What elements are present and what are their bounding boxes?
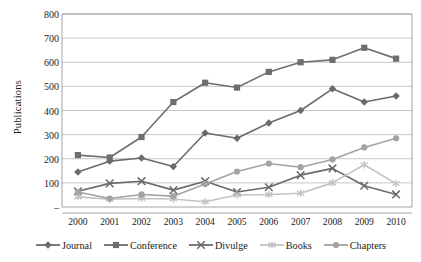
- data-point-chapters-2002: [138, 191, 144, 197]
- legend-label-conference: Conference: [130, 240, 177, 251]
- data-point-journal-2009: [361, 98, 368, 105]
- data-point-chapters-2005: [234, 168, 240, 174]
- data-point-chapters-2006: [266, 160, 272, 166]
- data-point-books-2010: [392, 180, 399, 187]
- data-point-conference-2001: [107, 154, 113, 160]
- legend-label-divulge: Divulge: [215, 240, 248, 251]
- plot-area: [0, 0, 421, 262]
- data-point-conference-2009: [361, 45, 367, 51]
- data-point-chapters-2010: [393, 135, 399, 141]
- legend-label-chapters: Chapters: [350, 240, 386, 251]
- data-point-conference-legend: [113, 242, 119, 248]
- data-point-journal-2002: [138, 154, 145, 161]
- legend-marker-diamond-icon: [35, 239, 61, 251]
- legend-label-journal: Journal: [62, 240, 92, 251]
- data-point-chapters-2007: [298, 164, 304, 170]
- data-point-conference-2004: [202, 80, 208, 86]
- publications-line-chart: Publications 800700600500400300200100– 2…: [0, 0, 421, 262]
- data-point-journal-2005: [233, 135, 240, 142]
- gridlines: [62, 14, 412, 183]
- legend-item-books[interactable]: Books: [259, 239, 312, 251]
- legend-marker-circle-icon: [323, 239, 349, 251]
- data-series-layer: [74, 45, 400, 206]
- data-point-chapters-2004: [202, 181, 208, 187]
- legend-marker-star-icon: [259, 239, 285, 251]
- series-line-journal: [78, 89, 396, 172]
- legend-item-journal[interactable]: Journal: [35, 239, 92, 251]
- data-point-journal-2006: [265, 119, 272, 126]
- legend-marker-cross-icon: [188, 239, 214, 251]
- data-point-chapters-2008: [329, 156, 335, 162]
- data-point-chapters-legend: [333, 242, 339, 248]
- data-point-journal-2010: [392, 92, 399, 99]
- data-point-conference-2000: [75, 152, 81, 158]
- data-point-chapters-2001: [107, 195, 113, 201]
- legend-item-chapters[interactable]: Chapters: [323, 239, 386, 251]
- data-point-books-2009: [361, 161, 368, 168]
- data-point-conference-2010: [393, 56, 399, 62]
- data-point-journal-2000: [74, 168, 81, 175]
- series-journal: [74, 85, 400, 176]
- chart-legend: JournalConferenceDivulgeBooksChapters: [0, 234, 421, 256]
- data-point-conference-2003: [170, 99, 176, 105]
- legend-item-conference[interactable]: Conference: [103, 239, 177, 251]
- data-point-chapters-2009: [361, 144, 367, 150]
- data-point-chapters-2000: [75, 189, 81, 195]
- legend-label-books: Books: [286, 240, 312, 251]
- data-point-conference-2005: [234, 84, 240, 90]
- legend-marker-square-icon: [103, 239, 129, 251]
- data-point-journal-legend: [44, 241, 51, 248]
- data-point-conference-2008: [329, 57, 335, 63]
- legend-item-divulge[interactable]: Divulge: [188, 239, 248, 251]
- data-point-conference-2002: [138, 134, 144, 140]
- data-point-conference-2007: [298, 59, 304, 65]
- data-point-chapters-2003: [170, 193, 176, 199]
- data-point-conference-2006: [266, 69, 272, 75]
